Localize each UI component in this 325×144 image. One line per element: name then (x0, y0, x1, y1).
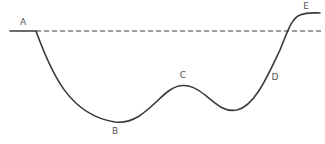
point-label-d: D (272, 72, 279, 82)
point-label-b: B (112, 126, 118, 136)
profile-curve (10, 13, 320, 122)
point-label-a: A (20, 17, 27, 27)
point-label-e: E (303, 1, 309, 11)
point-label-c: C (180, 70, 186, 80)
profile-diagram: A B C D E (0, 0, 325, 144)
